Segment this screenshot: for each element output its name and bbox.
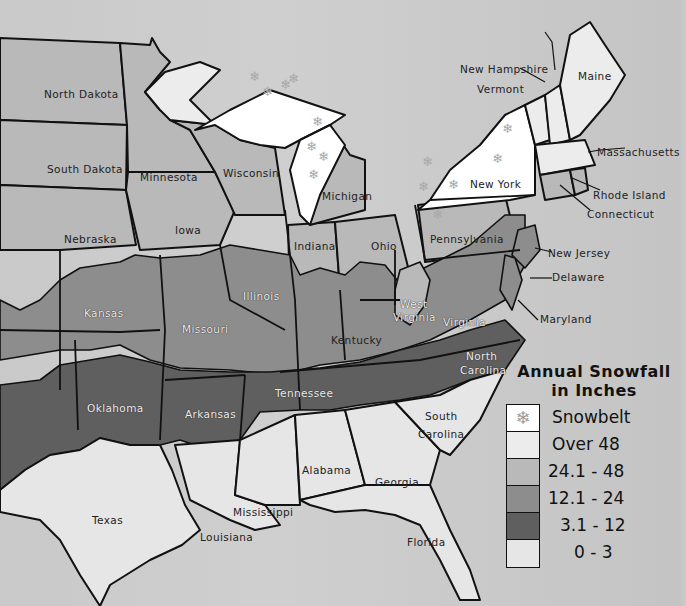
legend-title-line1: Annual Snowfall xyxy=(502,362,686,381)
snowflake-icon: ❄ xyxy=(448,178,459,191)
label-kentucky: Kentucky xyxy=(331,334,382,346)
snowflake-icon: ❄ xyxy=(502,122,513,135)
legend-title: Annual Snowfall in Inches xyxy=(502,362,686,400)
label-new-york: New York xyxy=(470,178,521,190)
label-new-jersey: New Jersey xyxy=(548,247,610,259)
legend-label-0-3: 0 - 3 xyxy=(548,539,631,566)
snowflake-icon: ❄ xyxy=(262,85,273,98)
legend-label-snowbelt: Snowbelt xyxy=(548,404,631,431)
legend-label-over-48: Over 48 xyxy=(548,431,631,458)
legend-label-12-24: 12.1 - 24 xyxy=(548,485,631,512)
label-florida: Florida xyxy=(407,536,446,548)
swatch-24-48 xyxy=(507,459,539,486)
legend-labels: Snowbelt Over 48 24.1 - 48 12.1 - 24 3.1… xyxy=(548,404,631,566)
label-texas: Texas xyxy=(92,514,123,526)
snowflake-icon: ❄ xyxy=(432,208,443,221)
label-south-dakota: South Dakota xyxy=(47,163,123,175)
legend-label-3-12: 3.1 - 12 xyxy=(548,512,631,539)
label-arkansas: Arkansas xyxy=(185,408,236,420)
label-missouri: Missouri xyxy=(182,323,228,335)
legend-title-line2: in Inches xyxy=(502,381,686,400)
label-west-virginia-1: West xyxy=(400,298,427,310)
label-west-virginia-2: Virginia xyxy=(393,311,436,323)
label-maryland: Maryland xyxy=(540,313,592,325)
label-north-carolina-2: Carolina xyxy=(460,364,506,376)
state-iowa xyxy=(126,172,235,250)
snowflake-icon: ❄ xyxy=(318,150,329,163)
label-vermont: Vermont xyxy=(477,83,524,95)
label-pennsylvania: Pennsylvania xyxy=(430,233,504,245)
label-rhode-island: Rhode Island xyxy=(593,189,666,201)
label-indiana: Indiana xyxy=(294,240,336,252)
swatch-over-48 xyxy=(507,432,539,459)
state-south-dakota xyxy=(0,120,127,190)
label-south-carolina-2: Carolina xyxy=(418,428,464,440)
label-massachusetts: Massachusetts xyxy=(597,146,680,158)
label-minnesota: Minnesota xyxy=(140,171,198,183)
label-virginia: Virginia xyxy=(443,316,486,328)
label-nebraska: Nebraska xyxy=(64,233,117,245)
label-georgia: Georgia xyxy=(375,476,419,488)
snowflake-icon: ❄ xyxy=(288,72,299,85)
swatch-12-24 xyxy=(507,486,539,513)
label-mississippi: Mississippi xyxy=(233,506,293,518)
snowflake-icon: ❄ xyxy=(306,140,317,153)
label-ohio: Ohio xyxy=(371,240,397,252)
label-iowa: Iowa xyxy=(175,224,201,236)
label-connecticut: Connecticut xyxy=(587,208,654,220)
legend-swatches: ❄ xyxy=(506,404,540,568)
label-oklahoma: Oklahoma xyxy=(87,402,144,414)
label-wisconsin: Wisconsin xyxy=(223,167,279,179)
state-new-york xyxy=(418,105,535,210)
snowflake-icon: ❄ xyxy=(515,409,530,427)
label-north-carolina-1: North xyxy=(466,350,497,362)
label-new-hampshire: New Hampshire xyxy=(460,63,548,75)
label-maine: Maine xyxy=(578,70,612,82)
swatch-0-3 xyxy=(507,540,539,567)
snowflake-icon: ❄ xyxy=(492,152,503,165)
label-delaware: Delaware xyxy=(552,271,605,283)
label-michigan: Michigan xyxy=(322,190,372,202)
label-illinois: Illinois xyxy=(243,290,280,302)
state-florida xyxy=(300,485,480,600)
label-north-dakota: North Dakota xyxy=(44,88,119,100)
snowflake-icon: ❄ xyxy=(308,168,319,181)
snowflake-icon: ❄ xyxy=(249,70,260,83)
label-louisiana: Louisiana xyxy=(200,531,253,543)
state-connecticut xyxy=(540,170,575,200)
swatch-snowbelt: ❄ xyxy=(507,405,539,432)
label-kansas: Kansas xyxy=(84,307,124,319)
state-north-dakota xyxy=(0,38,127,125)
swatch-3-12 xyxy=(507,513,539,540)
label-alabama: Alabama xyxy=(302,464,351,476)
label-tennessee: Tennessee xyxy=(275,387,333,399)
snowflake-icon: ❄ xyxy=(312,115,323,128)
snowflake-icon: ❄ xyxy=(422,155,433,168)
legend-label-24-48: 24.1 - 48 xyxy=(548,458,631,485)
label-south-carolina-1: South xyxy=(425,410,458,422)
snowflake-icon: ❄ xyxy=(418,180,429,193)
